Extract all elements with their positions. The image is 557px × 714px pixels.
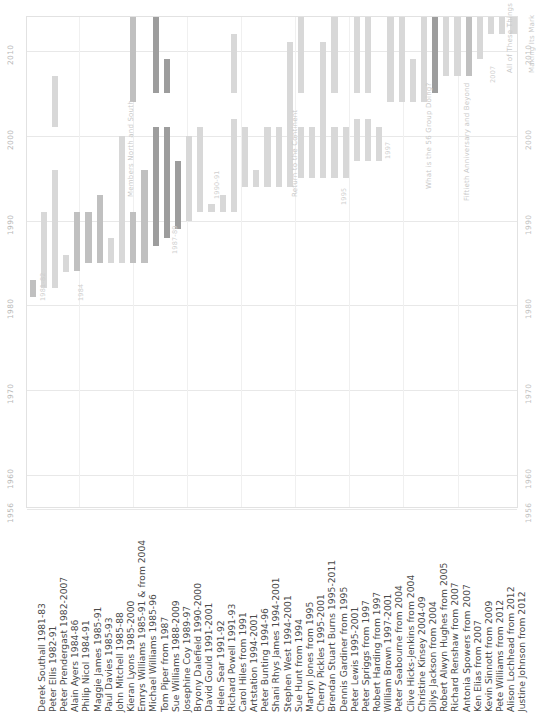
category-label: Peter Lewis 1995-2001: [349, 607, 360, 712]
bar[interactable]: [63, 255, 69, 272]
y-axis-tick-1970: 1970: [6, 384, 15, 404]
chart-annotation: 1997: [384, 142, 392, 159]
bar[interactable]: [410, 59, 416, 101]
category-label: Peter Spriggs from 1997: [360, 600, 371, 712]
vertical-gridline-7: [458, 17, 459, 507]
bar[interactable]: [309, 127, 315, 178]
category-label: Dennis Gardiner from 1995: [338, 587, 349, 712]
category-label: Brendan Stuart Burns 1995-2011: [326, 560, 337, 712]
bar-segment[interactable]: [331, 127, 337, 178]
bar[interactable]: [466, 17, 472, 76]
bar[interactable]: [253, 170, 259, 187]
chart-annotation: Fiftieth Anniversary and Beyond: [463, 83, 471, 201]
bar[interactable]: [175, 161, 181, 229]
category-label: Antonia Spowers from 2007: [461, 584, 472, 712]
vertical-gridline-2: [187, 17, 188, 507]
y-axis-tick-1960: 1960: [524, 469, 533, 489]
plot-area: 1981-821984Members North and South1987-8…: [26, 16, 518, 508]
bar[interactable]: [376, 127, 382, 161]
bar[interactable]: [387, 17, 393, 102]
bar[interactable]: [499, 17, 505, 34]
bar-segment[interactable]: [331, 17, 337, 93]
bar-segment[interactable]: [231, 34, 237, 93]
bar-segment[interactable]: [298, 17, 304, 93]
category-label: Kieran Lyons 1985-2000: [125, 601, 136, 712]
bar-segment[interactable]: [52, 76, 58, 127]
bar-segment[interactable]: [354, 17, 360, 93]
vertical-gridline-4: [295, 17, 296, 507]
category-label: Robert Harding from 1997: [371, 592, 382, 712]
category-label: John Mitchell 1985-88: [114, 612, 125, 712]
y-axis-tick-1990: 1990: [524, 214, 533, 234]
category-label: Helen Sear 1991-92: [215, 620, 226, 712]
bar[interactable]: [343, 127, 349, 178]
category-label: Emrys Williams 1985-91 & from 2004: [136, 540, 147, 712]
bar[interactable]: [85, 212, 91, 263]
bar[interactable]: [443, 17, 449, 76]
bar-segment[interactable]: [365, 119, 371, 161]
bar-segment[interactable]: [164, 59, 170, 93]
bar[interactable]: [454, 17, 460, 76]
bar[interactable]: [186, 136, 192, 221]
bar[interactable]: [197, 127, 203, 212]
category-label: Alison Lochhead from 2012: [505, 586, 516, 712]
category-label: Pete Williams from 2012: [494, 600, 505, 712]
category-label: Josephine Coy 1989-97: [181, 606, 192, 712]
bar[interactable]: [130, 212, 136, 263]
category-label: Maggie James 1985-91: [92, 607, 103, 712]
gridline-1980: [27, 305, 517, 306]
bar[interactable]: [208, 204, 214, 213]
category-label: Christine Kinsey 2004-09: [416, 597, 427, 713]
bar-segment[interactable]: [365, 17, 371, 93]
chart-annotation: Members North and South: [127, 100, 135, 197]
category-label: Ken Elias from 2007: [472, 620, 483, 712]
bar-segment[interactable]: [153, 17, 159, 93]
y-axis-tick-1956: 1956: [6, 503, 15, 523]
gridline-1970: [27, 390, 517, 391]
category-label: Sue Hunt from 1994: [293, 619, 304, 712]
vertical-gridline-3: [241, 17, 242, 507]
category-label: Carol Hiles from 1991: [237, 612, 248, 712]
bar-segment[interactable]: [52, 170, 58, 289]
gridline-1960: [27, 475, 517, 476]
bar[interactable]: [30, 280, 36, 297]
category-label: Cherry Pickles 1995-2001: [315, 594, 326, 712]
bar[interactable]: [97, 195, 103, 263]
category-label: Tom Piper from 1987: [159, 617, 170, 712]
y-axis-tick-1990: 1990: [6, 214, 15, 234]
category-label: Clive Hicks-Jenkins from 2004: [405, 575, 416, 712]
category-label: Peter Ellis 1982-91: [47, 626, 58, 712]
bar[interactable]: [488, 17, 494, 34]
category-label: Artstation 1994-2001: [248, 614, 259, 712]
category-label: David Gould 1991-2001: [203, 603, 214, 712]
chart-canvas: 1981-821984Members North and South1987-8…: [0, 0, 557, 714]
bar[interactable]: [141, 170, 147, 263]
y-axis-tick-2000: 2000: [6, 129, 15, 149]
bar-segment-secondary[interactable]: [130, 17, 136, 102]
bar-segment[interactable]: [354, 119, 360, 161]
bar[interactable]: [477, 17, 483, 59]
chart-annotation: 1990-91: [213, 170, 221, 199]
bar-segment[interactable]: [231, 119, 237, 212]
bar[interactable]: [119, 136, 125, 263]
bar[interactable]: [320, 42, 326, 178]
bar-segment[interactable]: [153, 127, 159, 246]
bar[interactable]: [242, 127, 248, 186]
bar[interactable]: [264, 127, 270, 186]
chart-annotation: 1987-89: [171, 225, 179, 254]
category-label: Stephen West 1994-2001: [282, 595, 293, 712]
bar-segment[interactable]: [164, 127, 170, 237]
y-axis-tick-1956: 1956: [524, 503, 533, 523]
category-labels: Derek Southall 1981-83Peter Ellis 1982-9…: [26, 510, 518, 714]
chart-annotation: 2007: [489, 66, 497, 83]
category-label: Michael Williams 1985-96: [147, 594, 158, 712]
bar[interactable]: [276, 127, 282, 186]
bar[interactable]: [74, 212, 80, 271]
y-axis-tick-2010: 2010: [524, 45, 533, 65]
y-axis-tick-1970: 1970: [524, 384, 533, 404]
bar[interactable]: [399, 17, 405, 102]
category-label: Alain Ayers 1984-86: [69, 620, 80, 712]
category-label: Peter Seabourne from 2004: [393, 585, 404, 712]
category-label: Bryony Dalefield 1990-2000: [192, 583, 203, 712]
bar[interactable]: [108, 238, 114, 263]
